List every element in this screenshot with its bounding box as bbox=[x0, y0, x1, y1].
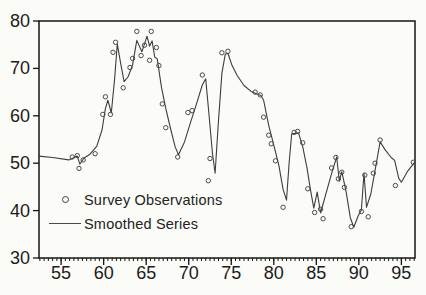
survey-observation-circle bbox=[113, 40, 117, 44]
x-axis-tick-label: 70 bbox=[179, 263, 199, 283]
x-axis-tick-label: 65 bbox=[136, 263, 156, 283]
survey-observation-circle bbox=[208, 156, 212, 160]
x-axis-tick-label: 95 bbox=[391, 263, 411, 283]
x-axis-tick-label: 90 bbox=[349, 263, 369, 283]
survey-observation-circle bbox=[312, 210, 316, 214]
survey-observation-circle bbox=[121, 86, 125, 90]
y-axis-tick-label: 60 bbox=[10, 106, 30, 126]
chart-container: 556065707580859095 304050607080 Survey O… bbox=[0, 0, 426, 295]
survey-observation-circle bbox=[164, 126, 168, 130]
y-axis-ticks bbox=[33, 21, 39, 258]
survey-observation-circle bbox=[139, 53, 143, 57]
survey-observation-circle bbox=[220, 51, 224, 55]
y-axis-tick-labels: 304050607080 bbox=[10, 11, 30, 268]
survey-observation-circle bbox=[108, 112, 112, 116]
legend-marker-col bbox=[46, 196, 84, 203]
survey-observation-circle bbox=[190, 108, 194, 112]
survey-observation-circle bbox=[147, 58, 151, 62]
survey-observation-circle bbox=[267, 133, 271, 137]
survey-observation-circle bbox=[149, 29, 153, 33]
survey-observation-circle bbox=[206, 179, 210, 183]
x-axis-tick-label: 75 bbox=[221, 263, 241, 283]
open-circle-marker-icon bbox=[62, 196, 69, 203]
legend-item-survey-observations: Survey Observations bbox=[46, 190, 222, 209]
y-axis-tick-label: 50 bbox=[10, 153, 30, 173]
survey-observation-circle bbox=[306, 187, 310, 191]
legend: Survey Observations Smoothed Series bbox=[46, 190, 222, 233]
y-axis-tick-label: 30 bbox=[10, 248, 30, 268]
x-axis-tick-label: 60 bbox=[94, 263, 114, 283]
y-axis-tick-label: 40 bbox=[10, 201, 30, 221]
x-axis-tick-label: 80 bbox=[264, 263, 284, 283]
x-axis-tick-label: 85 bbox=[306, 263, 326, 283]
survey-observation-circle bbox=[154, 45, 158, 49]
legend-label-survey-observations: Survey Observations bbox=[84, 192, 222, 208]
survey-observation-circle bbox=[366, 215, 370, 219]
y-axis-tick-label: 80 bbox=[10, 11, 30, 31]
survey-observation-circle bbox=[321, 217, 325, 221]
survey-observation-circle bbox=[160, 102, 164, 106]
legend-label-smoothed-series: Smoothed Series bbox=[84, 216, 198, 232]
x-axis-tick-labels: 556065707580859095 bbox=[51, 263, 411, 283]
survey-observation-circle bbox=[176, 155, 180, 159]
survey-observation-circle bbox=[111, 50, 115, 54]
survey-observation-circle bbox=[393, 183, 397, 187]
survey-observation-circle bbox=[269, 142, 273, 146]
survey-observation-circle bbox=[77, 166, 81, 170]
survey-observation-circle bbox=[273, 159, 277, 163]
survey-observation-circle bbox=[281, 205, 285, 209]
y-axis-tick-label: 70 bbox=[10, 58, 30, 78]
chart-plot: 556065707580859095 304050607080 bbox=[0, 0, 426, 295]
survey-observation-circle bbox=[135, 29, 139, 33]
survey-observation-circle bbox=[93, 152, 97, 156]
survey-observation-circle bbox=[200, 73, 204, 77]
legend-marker-col bbox=[46, 223, 84, 224]
legend-item-smoothed-series: Smoothed Series bbox=[46, 214, 222, 233]
survey-observation-circle bbox=[103, 95, 107, 99]
survey-observation-circle bbox=[261, 115, 265, 119]
x-axis-tick-label: 55 bbox=[51, 263, 71, 283]
line-sample-icon bbox=[49, 223, 81, 224]
survey-observation-circle bbox=[349, 225, 353, 229]
